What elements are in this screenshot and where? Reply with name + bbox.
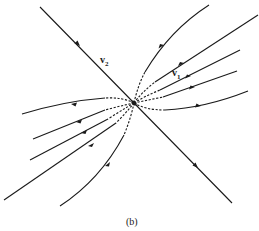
figure-caption: (b) xyxy=(126,216,138,227)
arrow-icon xyxy=(88,143,94,147)
trajectories-lower-left xyxy=(4,98,134,206)
label-v2-sub: 2 xyxy=(105,60,109,68)
arrow-icon xyxy=(71,103,77,107)
arrow-icon xyxy=(81,130,87,134)
label-v1-sub: 1 xyxy=(177,73,181,81)
label-v1: v1 xyxy=(172,67,181,81)
label-v2: v2 xyxy=(100,54,109,68)
trajectories-upper-right xyxy=(134,5,258,110)
phase-portrait xyxy=(0,0,259,231)
